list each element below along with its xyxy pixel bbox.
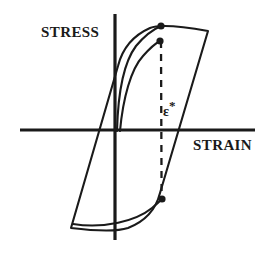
stress-axis-label: STRESS	[41, 24, 99, 41]
inner-loop-upper-branch-curve	[117, 26, 161, 131]
epsilon-star-guide-line	[161, 41, 162, 199]
upper-curve-point	[157, 22, 164, 29]
lower-return-branch-curve	[73, 199, 162, 226]
strain-axis-label: STRAIN	[193, 137, 252, 154]
mid-curve-point	[156, 37, 163, 44]
epsilon-star-superscript: *	[169, 98, 176, 113]
epsilon-star-label: ε*	[163, 104, 175, 120]
outer-loop-curve	[71, 26, 208, 231]
inner-loop-lower-branch-curve	[120, 41, 160, 131]
lower-curve-point	[158, 195, 165, 202]
stress-strain-hysteresis-figure: STRESS STRAIN ε*	[0, 0, 274, 255]
